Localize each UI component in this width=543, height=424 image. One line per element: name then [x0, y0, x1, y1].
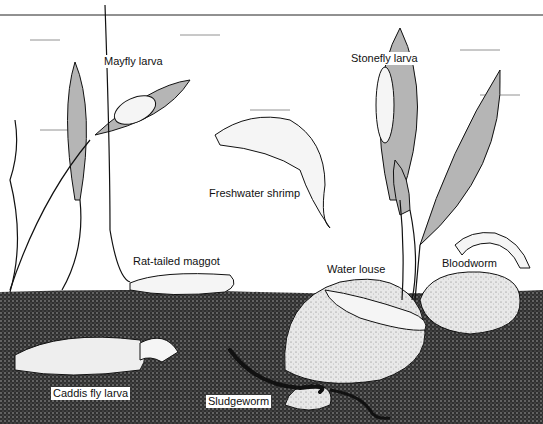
label-sludgeworm: Sludgeworm — [206, 395, 271, 408]
label-water-louse: Water louse — [325, 263, 387, 276]
label-mayfly-larva: Mayfly larva — [102, 55, 165, 68]
leaf — [68, 62, 87, 200]
freshwater-shrimp — [215, 117, 330, 228]
stonefly-larva — [376, 67, 394, 143]
label-rat-tailed-maggot: Rat-tailed maggot — [131, 255, 222, 268]
pond-illustration — [0, 0, 543, 424]
label-freshwater-shrimp: Freshwater shrimp — [207, 187, 302, 200]
label-caddis-fly-larva: Caddis fly larva — [51, 387, 130, 400]
pond-diagram: Mayfly larva Stonefly larva Freshwater s… — [0, 0, 543, 424]
label-stonefly-larva: Stonefly larva — [349, 52, 420, 65]
rat-tailed-maggot — [130, 274, 234, 295]
label-bloodworm: Bloodworm — [440, 257, 499, 270]
